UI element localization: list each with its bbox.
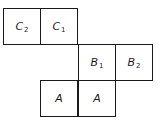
cell-label: B	[90, 56, 98, 69]
cell-a-left: A	[40, 80, 78, 117]
cell-subscript: 2	[136, 62, 140, 70]
cell-label: A	[55, 92, 63, 105]
cell-subscript: 1	[61, 26, 65, 34]
cell-b1: B1	[78, 44, 116, 81]
cell-label: B	[127, 56, 135, 69]
cell-a-right: A	[78, 80, 116, 117]
cell-c2: C2	[3, 8, 41, 45]
cell-label: C	[15, 20, 23, 33]
cell-subscript: 1	[99, 62, 103, 70]
cell-label: A	[93, 92, 101, 105]
cell-subscript: 2	[24, 26, 28, 34]
cell-c1: C1	[40, 8, 78, 45]
cell-label: C	[52, 20, 60, 33]
cell-b2: B2	[115, 44, 153, 81]
